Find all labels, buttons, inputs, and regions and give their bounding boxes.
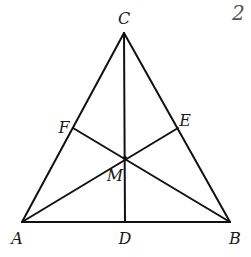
cevians (22, 33, 230, 222)
label-D: D (118, 229, 132, 248)
segment-BF (73, 128, 230, 222)
segment-CD (124, 33, 125, 222)
label-B: B (228, 229, 241, 248)
triangle-diagram: 2 C F E M A D B (0, 0, 251, 257)
label-C: C (118, 9, 130, 28)
segment-AE (22, 128, 178, 222)
label-A: A (9, 229, 23, 248)
page-number-fragment: 2 (231, 1, 245, 25)
label-E: E (178, 111, 191, 130)
point-M-dot (123, 156, 127, 160)
triangle-sides (22, 33, 230, 222)
label-F: F (57, 118, 70, 137)
label-M: M (106, 166, 124, 185)
